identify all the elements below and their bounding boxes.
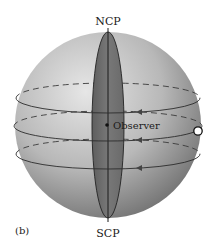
observer-label: Observer: [113, 120, 160, 131]
ncp-label: NCP: [95, 15, 121, 28]
panel-label: (b): [15, 225, 29, 236]
observer-dot: [105, 123, 109, 127]
celestial-sphere-diagram: Observer NCP SCP (b): [0, 0, 217, 249]
scp-label: SCP: [96, 227, 120, 240]
star-marker: [194, 127, 202, 135]
